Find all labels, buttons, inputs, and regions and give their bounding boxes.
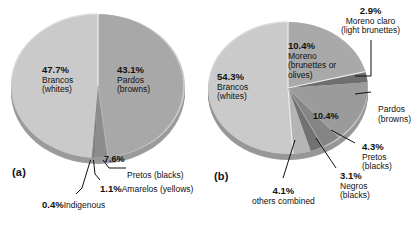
label-b-moreno-claro-name2: (light brunettes) [341,26,400,36]
label-b-negros: 3.1%Negros (blacks) [340,171,370,201]
label-a-amarelos: 1.1%Amarelos (yellows) [100,178,193,196]
label-b-pretos-line: 4.3%Pretos [362,142,392,162]
label-a-brancos-name2: (whites) [42,85,73,95]
label-a-indigenous-name: Indigenous [64,200,106,210]
label-b-negros-line: 3.1%Negros [340,171,370,191]
label-b-pardos-pct: 10.4% [313,111,339,121]
label-a-pretos-pct-wrap: 7.6% [104,148,125,165]
label-b-pardos: Pardos (browns) [378,105,411,124]
label-b-pardos-name2: (browns) [378,115,411,125]
label-b-moreno-name3: olives) [288,71,336,81]
label-b-pardos-pct-wrap: 10.4% [313,105,339,122]
label-b-others-name: others combined [252,197,315,207]
label-a-indigenous: 0.4%Indigenous [42,194,105,212]
label-b-negros-name2: (blacks) [340,191,370,201]
label-a-pretos-pct: 7.6% [104,154,125,164]
label-b-pretos: 4.3%Pretos (blacks) [362,142,392,172]
label-b-others: 4.1% others combined [252,186,315,206]
label-b-moreno-claro: 2.9% Moreno claro (light brunettes) [341,6,400,36]
label-b-brancos: 54.3% Brancos (whites) [217,72,248,102]
label-a-pardos-name2: (browns) [117,85,150,95]
label-a-amarelos-name: Amarelos (yellows) [122,184,194,194]
label-a-pardos: 43.1% Pardos (browns) [117,65,150,95]
label-a-indigenous-pct: 0.4% [42,199,64,210]
leader-a-indigenous [76,160,91,194]
figure-pie-charts: 47.7% Brancos (whites) 43.1% Pardos (bro… [0,0,420,226]
label-b-brancos-name2: (whites) [217,92,248,102]
panel-a-id: (a) [12,166,26,178]
label-a-amarelos-pct: 1.1% [100,183,122,194]
panel-b-id: (b) [214,170,229,182]
label-b-moreno: 10.4% Moreno (brunettes or olives) [288,41,336,80]
label-a-brancos: 47.7% Brancos (whites) [42,65,73,95]
